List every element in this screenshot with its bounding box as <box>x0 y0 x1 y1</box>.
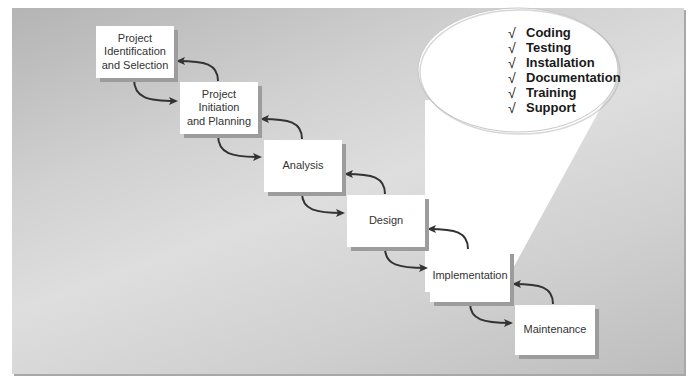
checkmark-icon: √ <box>508 70 522 86</box>
phase-label-design: Design <box>369 214 403 228</box>
checklist-item-label: Documentation <box>526 70 621 85</box>
phase-box-analysis: Analysis <box>264 140 342 192</box>
arrow-analysis-to-design <box>302 193 343 213</box>
checkmark-icon: √ <box>508 85 522 101</box>
phase-box-identification: Project Identification and Selection <box>96 26 174 78</box>
arrow-analysis-back-to-initiation <box>262 119 302 139</box>
phase-box-design: Design <box>347 195 425 247</box>
checklist-item: √ Training <box>508 85 688 100</box>
phase-label-analysis: Analysis <box>283 159 324 173</box>
checklist-item-label: Testing <box>526 40 571 55</box>
checklist-item: √ Testing <box>508 40 688 55</box>
checklist-item: √ Support <box>508 100 688 115</box>
arrow-initiation-back-to-identification <box>178 61 218 81</box>
checklist-item-label: Installation <box>526 55 595 70</box>
phase-label-maintenance: Maintenance <box>524 323 587 337</box>
implementation-activities-checklist: √ Coding √ Testing √ Installation √ Docu… <box>508 25 688 115</box>
arrow-maintenance-back-to-implementation <box>514 284 553 304</box>
checklist-item: √ Installation <box>508 55 688 70</box>
checkmark-icon: √ <box>508 40 522 56</box>
checklist-item: √ Coding <box>508 25 688 40</box>
checkmark-icon: √ <box>508 25 522 41</box>
checklist-item-label: Coding <box>526 25 571 40</box>
arrow-design-back-to-analysis <box>346 174 385 194</box>
phase-box-maintenance: Maintenance <box>515 305 595 355</box>
checklist-item: √ Documentation <box>508 70 688 85</box>
arrow-design-to-implementation <box>385 248 426 268</box>
checkmark-icon: √ <box>508 100 522 116</box>
checklist-item-label: Training <box>526 85 577 100</box>
arrow-initiation-to-analysis <box>218 135 260 157</box>
phase-label-initiation: Project Initiation and Planning <box>187 88 251 129</box>
phase-box-initiation: Project Initiation and Planning <box>180 82 258 134</box>
phase-label-implementation: Implementation <box>432 269 507 283</box>
arrow-identification-to-initiation <box>134 79 176 101</box>
arrow-implementation-to-maintenance <box>470 303 511 323</box>
phase-box-implementation: Implementation <box>430 250 510 302</box>
phase-label-identification: Project Identification and Selection <box>102 32 169 73</box>
checklist-item-label: Support <box>526 100 576 115</box>
checkmark-icon: √ <box>508 55 522 71</box>
